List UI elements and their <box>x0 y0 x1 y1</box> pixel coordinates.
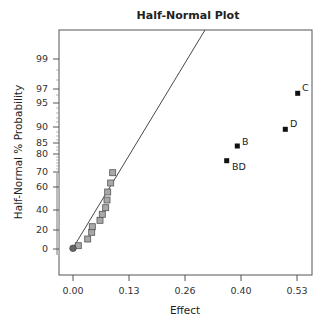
data-point <box>105 189 111 195</box>
y-tick-20: 20 <box>36 224 48 235</box>
y-tick-99: 99 <box>36 53 48 64</box>
y-tick-90: 90 <box>36 121 48 132</box>
label-D: D <box>290 118 297 129</box>
data-point <box>104 197 110 203</box>
y-minor-tick-rug <box>56 173 59 255</box>
data-point <box>89 224 95 230</box>
chart-title: Half-Normal Plot <box>137 9 240 22</box>
data-point <box>110 170 116 176</box>
x-major-ticks <box>73 275 297 281</box>
y-tick-0: 0 <box>42 243 48 254</box>
selected-effect-points <box>224 91 300 163</box>
x-tick-0.40: 0.40 <box>230 285 251 296</box>
data-point <box>85 236 91 242</box>
y-tick-60: 60 <box>36 181 48 192</box>
y-tick-97: 97 <box>36 83 48 94</box>
reference-line <box>73 30 205 248</box>
y-tick-85: 85 <box>36 137 48 148</box>
label-BD: BD <box>232 161 246 172</box>
point-C <box>295 91 300 96</box>
x-axis-label: Effect <box>170 304 200 316</box>
point-BD <box>224 158 229 163</box>
x-tick-labels: 0.00 0.13 0.26 0.40 0.53 <box>62 285 307 296</box>
x-tick-0.53: 0.53 <box>286 285 307 296</box>
origin-point <box>70 245 77 252</box>
y-axis-label: Half-Normal % Probability <box>12 85 24 219</box>
point-D <box>283 127 288 132</box>
y-tick-40: 40 <box>36 204 48 215</box>
data-point <box>89 229 95 235</box>
data-point <box>103 205 109 211</box>
plot-area <box>59 30 312 275</box>
label-C: C <box>302 82 309 93</box>
data-point <box>99 211 105 217</box>
y-tick-80: 80 <box>36 148 48 159</box>
error-effect-points <box>75 170 115 249</box>
x-tick-0.26: 0.26 <box>174 285 195 296</box>
point-B <box>235 144 240 149</box>
y-tick-labels: 99 97 95 90 85 80 70 60 40 20 0 <box>36 53 48 254</box>
y-tick-70: 70 <box>36 166 48 177</box>
half-normal-plot: Half-Normal Plot 99 97 95 90 85 80 <box>0 0 328 326</box>
y-tick-95: 95 <box>36 97 48 108</box>
data-point <box>97 217 103 223</box>
x-tick-0.13: 0.13 <box>118 285 139 296</box>
x-tick-0.00: 0.00 <box>62 285 83 296</box>
label-B: B <box>242 136 249 147</box>
data-point <box>108 180 114 186</box>
